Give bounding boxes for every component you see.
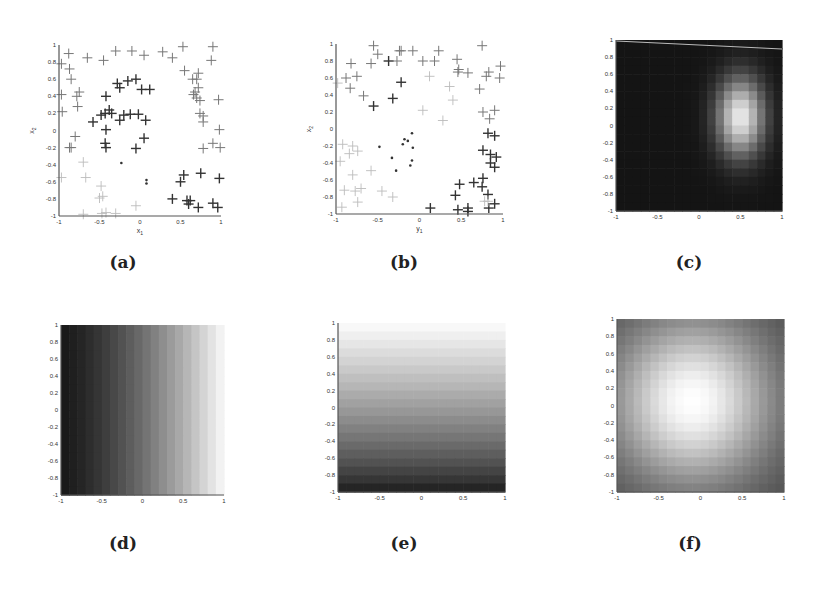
- caption-f: (f): [678, 533, 701, 553]
- x-tick-label: 1: [782, 495, 786, 501]
- x-tick-label: -0.5: [654, 495, 665, 501]
- y-tick-label: 1: [611, 316, 615, 322]
- y-tick-label: -0.4: [604, 437, 615, 443]
- heatmap-cells: [617, 319, 785, 493]
- y-tick-label: 0.4: [606, 368, 615, 374]
- y-tick-label: 0.2: [606, 385, 615, 391]
- x-tick-label: -1: [614, 495, 620, 501]
- y-tick-label: 0: [611, 403, 615, 409]
- y-tick-label: -0.8: [604, 472, 615, 478]
- y-tick-label: 0.8: [606, 333, 615, 339]
- y-tick-label: -0.6: [604, 454, 615, 460]
- y-tick-label: 0.6: [606, 351, 615, 357]
- heatmap-f: -1-0.8-0.6-0.4-0.200.20.40.60.81-1-0.500…: [0, 0, 821, 589]
- y-tick-label: -0.2: [604, 420, 615, 426]
- x-tick-label: 0: [699, 495, 703, 501]
- x-tick-label: 0.5: [738, 495, 747, 501]
